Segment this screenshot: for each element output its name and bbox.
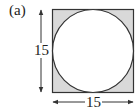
vertical-side-label: 15	[34, 43, 49, 58]
figure-label: (a)	[9, 3, 26, 18]
horizontal-side-label: 15	[85, 95, 102, 109]
inscribed-circle	[53, 10, 134, 93]
